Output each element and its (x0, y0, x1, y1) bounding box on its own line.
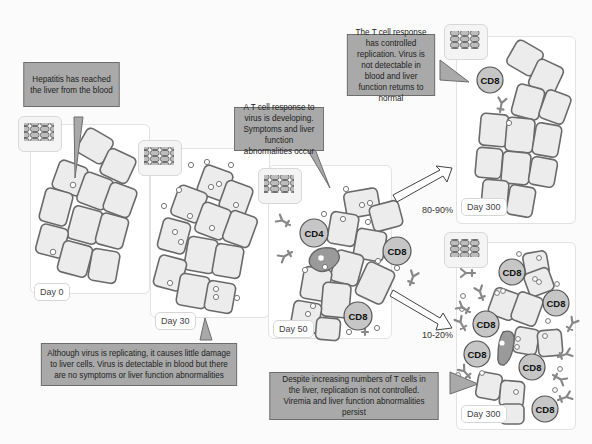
svg-text:CD8: CD8 (522, 362, 541, 373)
day-label-0: Day 0 (34, 283, 70, 301)
cd8-t-cell: CD8 (519, 354, 545, 380)
cd8-t-cell: CD8 (464, 341, 490, 367)
cd8-t-cell: CD8 (477, 67, 503, 93)
day-label-300-chronic: Day 300 (461, 405, 507, 423)
svg-text:CD8: CD8 (476, 319, 495, 330)
chronic-percentage: 10-20% (422, 330, 453, 340)
cd8-t-cell: CD8 (532, 396, 558, 422)
svg-text:CD4: CD4 (304, 228, 324, 239)
resolved-percentage: 80-90% (422, 205, 453, 215)
cd8-t-cell: CD8 (473, 311, 499, 337)
callout-day0: Hepatitis has reached the liver from the… (23, 62, 119, 107)
cd8-t-cell: CD8 (383, 237, 411, 265)
cd8-t-cell: CD8 (344, 302, 372, 330)
cd8-t-cell: CD8 (543, 290, 569, 316)
callout-resolved: The T cell response has controlled repli… (347, 34, 435, 96)
callout-day50: A T cell response to virus is developing… (234, 107, 324, 151)
day-label-30: Day 30 (155, 312, 196, 330)
svg-text:CD8: CD8 (467, 349, 486, 360)
svg-text:CD8: CD8 (535, 404, 554, 415)
cd8-t-cell: CD8 (499, 259, 525, 285)
hepatocytes-day30 (152, 159, 258, 314)
day-label-50: Day 50 (273, 320, 314, 338)
outcome-arrow-chronic (390, 290, 452, 330)
callout-day30: Although virus is replicating, it causes… (41, 343, 237, 386)
outcome-arrow-resolved (393, 166, 452, 202)
svg-text:CD8: CD8 (502, 267, 521, 278)
svg-text:CD8: CD8 (546, 298, 565, 309)
hepatocytes-day0 (35, 126, 139, 284)
hepatocytes-day300-chronic: CD8 CD8 CD8 CD8 CD8 CD8 (455, 250, 579, 424)
svg-text:CD8: CD8 (348, 311, 367, 322)
hepatocytes-day50: CD4 CD8 CD8 (276, 186, 419, 341)
callout-chronic: Despite increasing numbers of T cells in… (269, 372, 438, 420)
hepatocytes-day300-resolved: CD8 (475, 38, 573, 218)
svg-text:CD8: CD8 (480, 75, 499, 86)
svg-text:CD8: CD8 (387, 246, 406, 257)
cd4-t-cell: CD4 (300, 219, 328, 247)
day-label-300-resolved: Day 300 (461, 198, 507, 216)
